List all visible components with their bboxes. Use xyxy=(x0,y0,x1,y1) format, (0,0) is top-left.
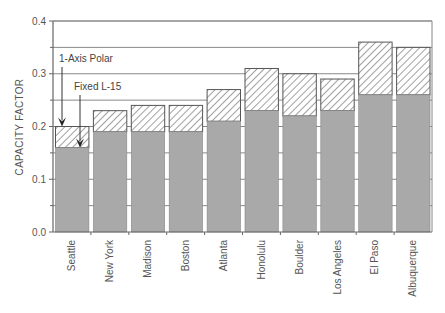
annotation-fixed-l15: Fixed L-15 xyxy=(74,81,122,92)
fixed-segment xyxy=(131,132,164,232)
annotation-1-axis-polar: 1-Axis Polar xyxy=(59,53,114,64)
bar-madison xyxy=(131,105,164,232)
polar-increment-segment xyxy=(169,105,202,131)
category-label: Seattle xyxy=(66,240,77,272)
fixed-segment xyxy=(207,121,240,232)
polar-increment-segment xyxy=(397,47,430,94)
bar-los-angeles xyxy=(321,79,354,232)
y-tick-label: 0.3 xyxy=(32,68,46,79)
bar-albuquerque xyxy=(397,47,430,232)
bar-el-paso xyxy=(359,42,392,232)
y-tick-label: 0.4 xyxy=(32,16,46,27)
x-category-labels: SeattleNew YorkMadisonBostonAtlantaHonol… xyxy=(66,232,418,297)
bar-new-york xyxy=(93,111,126,232)
bar-honolulu xyxy=(245,68,278,232)
fixed-segment xyxy=(283,116,316,232)
fixed-segment xyxy=(359,95,392,232)
fixed-segment xyxy=(56,148,89,232)
category-label: Boulder xyxy=(294,239,305,274)
fixed-segment xyxy=(245,111,278,232)
polar-increment-segment xyxy=(283,74,316,116)
y-tick-label: 0.0 xyxy=(32,227,46,238)
category-label: Los Angeles xyxy=(332,240,343,295)
bar-boulder xyxy=(283,74,316,232)
polar-increment-segment xyxy=(93,111,126,132)
y-tick-label: 0.1 xyxy=(32,174,46,185)
polar-increment-segment xyxy=(245,68,278,110)
bar-boston xyxy=(169,105,202,232)
polar-increment-segment xyxy=(359,42,392,95)
category-label: Atlanta xyxy=(218,240,229,272)
fixed-segment xyxy=(169,132,202,232)
fixed-segment xyxy=(93,132,126,232)
polar-increment-segment xyxy=(131,105,164,131)
category-label: New York xyxy=(104,239,115,282)
category-label: Madison xyxy=(142,240,153,278)
category-label: Albuquerque xyxy=(407,240,418,297)
capacity-factor-chart: 0.00.10.20.30.4 SeattleNew YorkMadisonBo… xyxy=(0,0,445,313)
bar-seattle xyxy=(56,127,89,233)
y-tick-labels: 0.00.10.20.30.4 xyxy=(32,16,53,238)
y-tick-label: 0.2 xyxy=(32,121,46,132)
y-axis-label: CAPACITY FACTOR xyxy=(14,79,25,176)
category-label: Honolulu xyxy=(256,240,267,279)
category-label: Boston xyxy=(180,240,191,271)
polar-increment-segment xyxy=(321,79,354,111)
bars xyxy=(56,42,431,232)
polar-increment-segment xyxy=(56,127,89,148)
polar-increment-segment xyxy=(207,90,240,122)
bar-atlanta xyxy=(207,90,240,232)
fixed-segment xyxy=(397,95,430,232)
fixed-segment xyxy=(321,111,354,232)
category-label: El Paso xyxy=(369,240,380,275)
